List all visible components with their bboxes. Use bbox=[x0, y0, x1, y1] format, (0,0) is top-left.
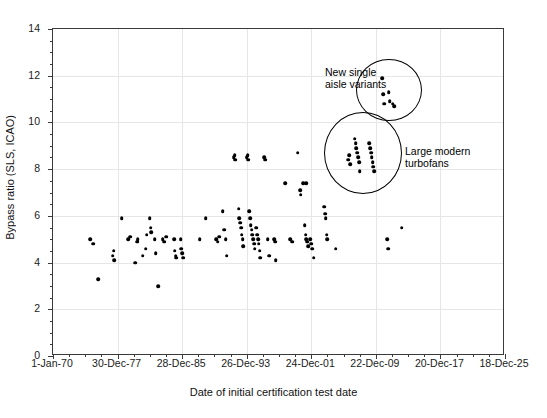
x-tick-label: 24-Dec-01 bbox=[286, 357, 335, 369]
x-tick-label: 28-Dec-85 bbox=[157, 357, 206, 369]
data-point bbox=[111, 254, 115, 258]
data-point bbox=[112, 249, 116, 253]
y-tick-minor bbox=[50, 239, 53, 240]
data-point bbox=[242, 244, 246, 248]
gridline-vertical bbox=[247, 29, 248, 354]
y-tick-minor bbox=[50, 286, 53, 287]
data-point bbox=[156, 284, 160, 288]
data-point bbox=[266, 237, 270, 241]
data-point bbox=[164, 235, 168, 239]
data-point bbox=[238, 216, 242, 220]
y-tick-major bbox=[48, 169, 53, 170]
data-point bbox=[120, 216, 124, 220]
y-tick-minor bbox=[50, 204, 53, 205]
data-point bbox=[324, 216, 328, 220]
data-point bbox=[217, 235, 221, 239]
data-point bbox=[284, 181, 288, 185]
data-point bbox=[225, 254, 229, 258]
y-tick-minor bbox=[50, 181, 53, 182]
x-tick-label: 18-Dec-25 bbox=[479, 357, 528, 369]
data-point bbox=[136, 237, 140, 241]
data-point bbox=[237, 207, 241, 211]
y-tick-minor bbox=[50, 134, 53, 135]
data-point bbox=[305, 181, 309, 185]
y-tick-label: 12 bbox=[28, 69, 40, 81]
data-point bbox=[274, 258, 278, 262]
gridline-horizontal bbox=[53, 122, 503, 123]
data-point bbox=[247, 158, 251, 162]
data-point bbox=[250, 228, 254, 232]
data-point bbox=[263, 158, 267, 162]
data-point bbox=[385, 237, 389, 241]
data-point bbox=[180, 251, 184, 255]
x-tick-label: 22-Dec-09 bbox=[350, 357, 399, 369]
y-tick-minor bbox=[50, 87, 53, 88]
gridline-vertical bbox=[182, 29, 183, 354]
data-point bbox=[163, 240, 167, 244]
gridline-vertical bbox=[118, 29, 119, 354]
data-point bbox=[252, 242, 256, 246]
data-point bbox=[400, 226, 404, 230]
data-point bbox=[239, 226, 243, 230]
data-point bbox=[299, 193, 303, 197]
data-point bbox=[310, 247, 314, 251]
x-axis-title: Date of initial certification test date bbox=[0, 386, 547, 398]
y-tick-minor bbox=[50, 99, 53, 100]
x-tick-label: 26-Dec-93 bbox=[221, 357, 270, 369]
data-point bbox=[149, 226, 153, 230]
gridline-vertical bbox=[311, 29, 312, 354]
y-tick-label: 2 bbox=[34, 302, 40, 314]
data-point bbox=[323, 212, 327, 216]
data-point bbox=[322, 205, 326, 209]
data-point bbox=[180, 247, 184, 251]
x-tick-label: 1-Jan-70 bbox=[31, 357, 72, 369]
gridline-horizontal bbox=[53, 169, 503, 170]
data-point bbox=[173, 249, 177, 253]
data-point bbox=[268, 254, 272, 258]
data-point bbox=[256, 237, 260, 241]
y-tick-minor bbox=[50, 274, 53, 275]
y-tick-minor bbox=[50, 157, 53, 158]
data-point bbox=[88, 237, 92, 241]
data-point bbox=[179, 237, 183, 241]
data-point bbox=[150, 230, 154, 234]
data-point bbox=[181, 256, 185, 260]
data-point bbox=[221, 209, 225, 213]
data-point bbox=[134, 261, 138, 265]
y-tick-minor bbox=[50, 344, 53, 345]
data-point bbox=[233, 153, 237, 157]
data-point bbox=[145, 233, 149, 237]
data-point bbox=[303, 223, 307, 227]
y-tick-major bbox=[48, 76, 53, 77]
data-point bbox=[141, 254, 145, 258]
data-point bbox=[259, 256, 263, 260]
data-point bbox=[326, 237, 330, 241]
y-tick-label: 14 bbox=[28, 22, 40, 34]
data-point bbox=[253, 247, 257, 251]
data-point bbox=[255, 233, 259, 237]
data-point bbox=[241, 237, 245, 241]
data-point bbox=[309, 242, 313, 246]
y-tick-major bbox=[48, 122, 53, 123]
data-point bbox=[255, 226, 259, 230]
data-point bbox=[222, 228, 226, 232]
y-tick-major bbox=[48, 216, 53, 217]
data-point bbox=[304, 233, 308, 237]
y-tick-label: 4 bbox=[34, 256, 40, 268]
data-point bbox=[386, 247, 390, 251]
data-point bbox=[325, 233, 329, 237]
gridline-horizontal bbox=[53, 76, 503, 77]
data-point bbox=[290, 240, 294, 244]
y-tick-minor bbox=[50, 146, 53, 147]
data-point bbox=[154, 251, 158, 255]
plot-area: New single aisle variantsLarge modern tu… bbox=[52, 28, 504, 355]
data-point bbox=[240, 233, 244, 237]
y-tick-label: 10 bbox=[28, 115, 40, 127]
data-point bbox=[251, 233, 255, 237]
data-point bbox=[172, 237, 176, 241]
data-point bbox=[234, 158, 238, 162]
gridline-horizontal bbox=[53, 309, 503, 310]
data-point bbox=[204, 216, 208, 220]
data-point bbox=[251, 237, 255, 241]
data-point bbox=[334, 247, 338, 251]
